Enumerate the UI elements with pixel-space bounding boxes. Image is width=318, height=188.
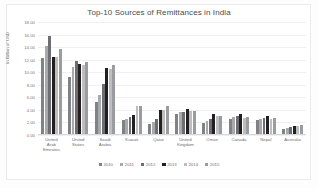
x-axis-tick-label: United Arab Emirates [38, 137, 65, 153]
bar [263, 118, 266, 135]
bar-group [172, 22, 199, 135]
bar [139, 106, 142, 135]
y-axis-tick: 6.00 [27, 95, 35, 100]
y-axis-tick: 2.00 [27, 120, 35, 125]
bar [179, 112, 182, 135]
legend-item[interactable]: 2014 [184, 162, 198, 167]
bar [72, 67, 75, 135]
y-axis-tick: 0.00 [27, 133, 35, 138]
y-axis-tick: 8.00 [27, 82, 35, 87]
legend-item[interactable]: 2011 [120, 162, 134, 167]
bar [219, 116, 222, 135]
x-axis-tick-label: Qatar [145, 137, 172, 153]
bar [193, 111, 196, 135]
y-axis-tick: 4.00 [27, 107, 35, 112]
bar [239, 114, 242, 135]
x-axis-tick-label: Saudi Arabia [92, 137, 119, 153]
bar [209, 119, 212, 135]
bar [68, 77, 71, 135]
bar [182, 112, 185, 135]
bar [175, 114, 178, 135]
x-axis-tick-label: Oman [199, 137, 226, 153]
legend-label: 2010 [103, 162, 113, 167]
x-axis-tick-label: Kuwait [118, 137, 145, 153]
legend-label: 2012 [146, 162, 156, 167]
bar [125, 119, 128, 135]
chart-page: Top-10 Sources of Remittances in India I… [0, 0, 318, 188]
bar-group [65, 22, 92, 135]
bar [189, 111, 192, 135]
y-axis-tick: 14.00 [24, 45, 35, 50]
bar [109, 69, 112, 135]
bar [102, 84, 105, 135]
bar-group [92, 22, 119, 135]
bar [52, 57, 55, 135]
bar [236, 116, 239, 135]
bar [162, 110, 165, 135]
y-axis-tick: 16.00 [24, 32, 35, 37]
bar [105, 68, 108, 135]
legend-item[interactable]: 2012 [141, 162, 155, 167]
bar-group [226, 22, 253, 135]
bar [246, 117, 249, 135]
bar [136, 106, 139, 135]
plot-area: 18.0016.0014.0012.0010.008.006.004.002.0… [38, 22, 306, 135]
bar [48, 36, 51, 135]
bar [232, 117, 235, 135]
legend-item[interactable]: 2013 [162, 162, 176, 167]
chart-title: Top-10 Sources of Remittances in India [0, 8, 318, 17]
legend-swatch [120, 163, 123, 166]
legend-label: 2015 [210, 162, 220, 167]
x-axis-line [38, 134, 306, 135]
bar-group [145, 22, 172, 135]
bar [229, 119, 232, 135]
bar [55, 57, 58, 135]
legend-swatch [205, 163, 208, 166]
bar-group [199, 22, 226, 135]
x-axis-tick-label: Nepal [252, 137, 279, 153]
bar [41, 58, 44, 135]
bar [159, 110, 162, 135]
y-axis-title: In Billion of USD [5, 20, 10, 76]
bar [122, 120, 125, 135]
x-axis-tick-label: Canada [226, 137, 253, 153]
bar [132, 115, 135, 135]
bar [45, 46, 48, 135]
bar [256, 120, 259, 135]
legend-swatch [184, 163, 187, 166]
bar [243, 118, 246, 135]
legend-label: 2014 [188, 162, 198, 167]
bar [112, 65, 115, 135]
x-axis-tick-label: United States [65, 137, 92, 153]
bar-group [279, 22, 306, 135]
bar [212, 114, 215, 135]
bar-groups [38, 22, 306, 135]
bar [206, 121, 209, 135]
bar [98, 95, 101, 135]
bar [273, 118, 276, 135]
bar [166, 106, 169, 135]
gridline: 0.00 [38, 135, 306, 136]
chart-legend: 201020112012201320142015 [0, 162, 318, 167]
bar-group [252, 22, 279, 135]
y-axis-tick: 12.00 [24, 57, 35, 62]
legend-item[interactable]: 2015 [205, 162, 219, 167]
bar [270, 119, 273, 135]
bar [266, 116, 269, 135]
bar [259, 119, 262, 135]
legend-label: 2011 [125, 162, 134, 167]
legend-label: 2013 [167, 162, 177, 167]
x-axis-labels: United Arab EmiratesUnited StatesSaudi A… [38, 137, 306, 153]
y-axis-tick: 18.00 [24, 20, 35, 25]
x-axis-tick-label: United Kingdom [172, 137, 199, 153]
bar-group [38, 22, 65, 135]
bar-group [118, 22, 145, 135]
bar [129, 117, 132, 135]
legend-swatch [141, 163, 144, 166]
bar [75, 61, 78, 135]
y-axis-tick: 10.00 [24, 70, 35, 75]
bar [95, 102, 98, 135]
legend-item[interactable]: 2010 [99, 162, 113, 167]
bar [85, 62, 88, 135]
bar [155, 119, 158, 135]
